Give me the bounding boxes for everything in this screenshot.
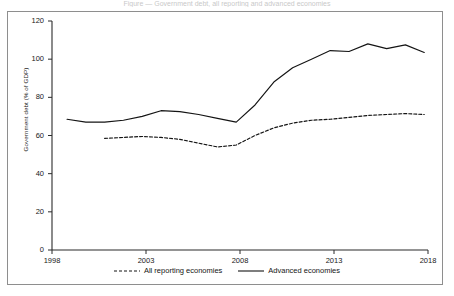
series-line-2 [67,44,424,122]
y-tick-label: 0 [18,245,44,254]
y-tick-label: 80 [18,92,44,101]
legend-item-all-reporting: All reporting economies [114,266,222,275]
legend-swatch-solid [238,268,264,274]
y-tick-label: 120 [18,16,44,25]
y-tick-label: 60 [18,131,44,140]
x-tick-label: 2013 [314,256,354,265]
legend-item-advanced: Advanced economies [238,266,340,275]
legend-label-advanced: Advanced economies [268,266,340,275]
legend-swatch-dashed [114,268,140,274]
x-tick-label: 2003 [126,256,166,265]
chart-frame: Government debt (% of GDP) 0204060801001… [7,11,443,285]
x-tick-label: 2018 [408,256,448,265]
plot-area [8,12,444,286]
series-line-1 [105,114,425,147]
y-tick-label: 100 [18,54,44,63]
x-tick-label: 2008 [220,256,260,265]
figure-caption-clipped: Figure — Government debt, all reporting … [0,0,454,7]
chart-figure: Figure — Government debt, all reporting … [0,0,454,296]
y-tick-label: 20 [18,207,44,216]
y-tick-label: 40 [18,169,44,178]
chart-legend: All reporting economies Advanced economi… [0,266,454,275]
x-tick-label: 1998 [32,256,72,265]
legend-label-all-reporting: All reporting economies [144,266,222,275]
